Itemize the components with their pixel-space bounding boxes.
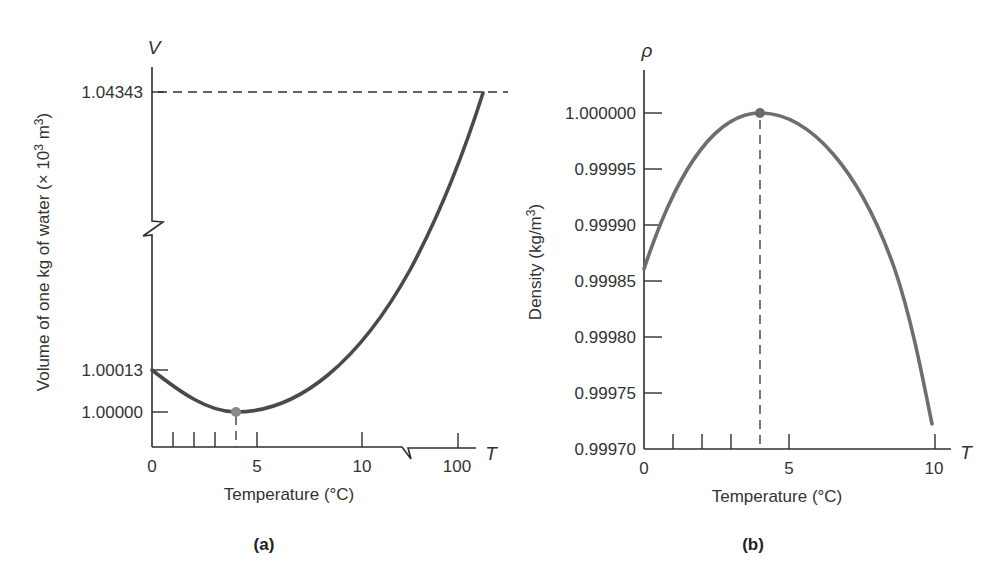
panel-a-ytick-label: 1.04343 xyxy=(82,83,143,102)
panel-b-xtick-label: 5 xyxy=(784,459,793,478)
panel-b-x-variable-label: T xyxy=(960,442,973,463)
panel-a-caption: (a) xyxy=(254,535,275,554)
panel-b-ytick-label: 0.99995 xyxy=(575,160,636,179)
panel-a-xtick-label: 5 xyxy=(252,457,261,476)
panel-a-xtick-label: 0 xyxy=(147,457,156,476)
panel-b-ytick-label: 0.99990 xyxy=(575,216,636,235)
panel-b-density-chart: 1.000000 0.99995 0.99990 0.99985 0.99980… xyxy=(524,40,973,554)
panel-b-ytick-label: 0.99980 xyxy=(575,328,636,347)
panel-a-y-axis-title: Volume of one kg of water (× 103 m3) xyxy=(32,113,53,391)
panel-b-y-variable-label: ρ xyxy=(641,40,653,61)
panel-b-ytick-label: 0.99975 xyxy=(575,384,636,403)
panel-b-y-axis-title: Density (kg/m3) xyxy=(524,204,545,320)
panel-b-ytick-label: 1.000000 xyxy=(565,104,636,123)
panel-a-x-variable-label: T xyxy=(485,443,498,464)
panel-a-y-axis xyxy=(143,67,163,447)
panel-a-ytick-label: 1.00000 xyxy=(82,403,143,422)
panel-a-volume-chart: 1.04343 1.00013 1.00000 0 5 10 100 V T V… xyxy=(32,37,508,554)
panel-a-x-axis-title: Temperature (°C) xyxy=(224,485,355,504)
panel-a-xtick-label: 100 xyxy=(443,457,471,476)
panel-b-ytick-label: 0.99970 xyxy=(575,440,636,459)
panel-b-x-axis-title: Temperature (°C) xyxy=(712,487,843,506)
panel-b-maximum-marker xyxy=(755,108,765,118)
panel-b-ytick-label: 0.99985 xyxy=(575,272,636,291)
panel-b-caption: (b) xyxy=(742,535,764,554)
panel-b-xtick-label: 0 xyxy=(639,459,648,478)
panel-a-minimum-marker xyxy=(231,407,241,417)
panel-b-density-curve xyxy=(644,113,932,424)
panel-a-ytick-label: 1.00013 xyxy=(82,361,143,380)
panel-a-y-variable-label: V xyxy=(148,37,163,58)
panel-a-x-axis xyxy=(152,447,476,459)
figure: 1.04343 1.00013 1.00000 0 5 10 100 V T V… xyxy=(0,0,989,584)
panel-a-xtick-label: 10 xyxy=(353,457,372,476)
panel-a-volume-curve xyxy=(152,93,483,412)
panel-b-xtick-label: 10 xyxy=(925,459,944,478)
